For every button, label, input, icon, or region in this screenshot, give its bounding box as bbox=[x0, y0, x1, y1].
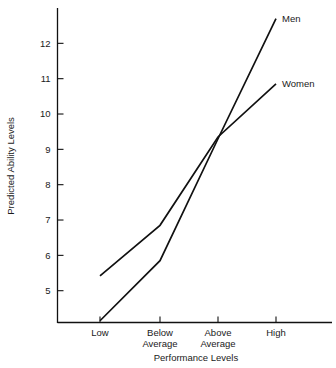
y-tick-label: 6 bbox=[45, 250, 50, 261]
x-tick-label: Average bbox=[200, 338, 235, 349]
x-axis-tick-labels: LowBelowAverageAboveAverageHigh bbox=[91, 327, 285, 349]
y-tick-label: 7 bbox=[45, 214, 50, 225]
x-tick-label: Above bbox=[205, 327, 232, 338]
x-tick-label: Below bbox=[147, 327, 173, 338]
x-axis-title: Performance Levels bbox=[154, 352, 239, 363]
chart-container: 56789101112 LowBelowAverageAboveAverageH… bbox=[0, 0, 336, 368]
y-tick-label: 11 bbox=[41, 73, 51, 84]
series-line-women bbox=[100, 84, 276, 276]
y-axis: 56789101112 bbox=[40, 8, 64, 323]
y-tick-label: 10 bbox=[40, 108, 51, 119]
x-axis: LowBelowAverageAboveAverageHigh bbox=[58, 317, 333, 349]
series-label-men: Men bbox=[282, 13, 300, 24]
y-axis-ticks bbox=[58, 43, 64, 290]
y-tick-label: 9 bbox=[45, 144, 50, 155]
y-tick-label: 8 bbox=[45, 179, 50, 190]
x-tick-label: Average bbox=[142, 338, 177, 349]
data-series-group bbox=[100, 19, 276, 321]
series-labels-group: MenWomen bbox=[282, 13, 315, 89]
x-tick-label: Low bbox=[91, 327, 109, 338]
series-label-women: Women bbox=[282, 78, 315, 89]
series-line-men bbox=[100, 19, 276, 321]
x-axis-ticks bbox=[100, 317, 276, 323]
line-chart: 56789101112 LowBelowAverageAboveAverageH… bbox=[0, 0, 336, 368]
y-tick-label: 5 bbox=[45, 285, 50, 296]
y-axis-title: Predicted Ability Levels bbox=[5, 117, 16, 215]
y-tick-label: 12 bbox=[40, 38, 51, 49]
y-axis-tick-labels: 56789101112 bbox=[40, 38, 51, 296]
x-tick-label: High bbox=[266, 327, 286, 338]
